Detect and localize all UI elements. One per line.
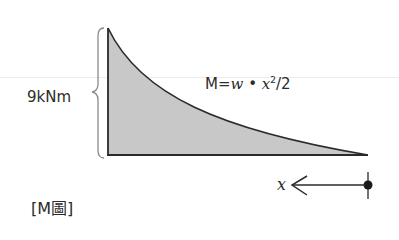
formula-var-x: x [262,75,270,93]
formula-tail: /2 [276,75,291,93]
magnitude-label: 9kNm [27,88,71,106]
magnitude-brace [92,28,104,158]
moment-formula: M=w • x2/2 [205,75,291,93]
formula-var-w: w [231,75,244,93]
formula-dot: • [243,75,261,93]
formula-lhs: M= [205,75,231,93]
diagram-caption: [M圖] [31,195,73,219]
axis-variable-label: x [277,175,286,194]
